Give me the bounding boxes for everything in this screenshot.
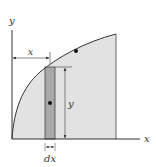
region-centroid-dot	[74, 49, 78, 53]
y-dimension-label: y	[67, 98, 74, 109]
y-axis-label: y	[8, 15, 15, 26]
x-dimension-label: x	[28, 47, 33, 57]
dx-label: dx	[44, 153, 56, 164]
strip-centroid-dot	[48, 101, 52, 105]
x-axis-label: x	[144, 133, 150, 144]
diagram-canvas: y x x y dx	[0, 0, 156, 167]
